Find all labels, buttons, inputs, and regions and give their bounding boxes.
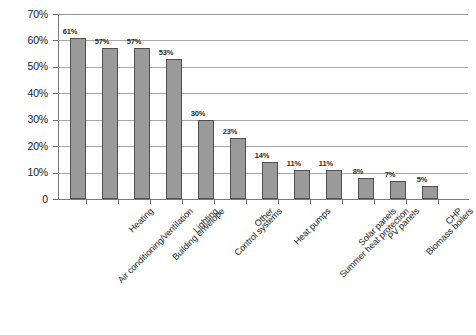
y-axis-tick-label: 10%: [4, 166, 48, 178]
bar-value-label: 30%: [178, 109, 218, 118]
gridline: [58, 14, 468, 15]
category-label: Heat pumps: [292, 206, 333, 247]
x-axis-tick-mark: [118, 200, 119, 204]
gridline: [58, 146, 468, 147]
x-axis-tick-mark: [278, 200, 279, 204]
bar-chart: 70% 60% 50% 40% 30% 20% 10% 0: [0, 0, 476, 335]
bar: [358, 178, 374, 199]
x-axis-tick-mark: [406, 200, 407, 204]
bar: [166, 59, 182, 199]
bar: [70, 38, 86, 199]
x-axis-tick-mark: [150, 200, 151, 204]
bar-value-label: 57%: [114, 37, 154, 46]
y-axis-tick-label: 40%: [4, 87, 48, 99]
y-axis-tick-label: 0: [4, 193, 48, 205]
gridline: [58, 93, 468, 94]
y-axis-tick-label: 20%: [4, 140, 48, 152]
y-axis-tick-label: 50%: [4, 60, 48, 72]
bar: [294, 170, 310, 199]
x-axis-tick-mark: [182, 200, 183, 204]
y-axis-tick-label: 70%: [4, 8, 48, 20]
category-label: Heating: [127, 206, 156, 235]
x-axis-tick-mark: [310, 200, 311, 204]
y-axis-tick-label: 60%: [4, 34, 48, 46]
bar-value-label: 61%: [50, 27, 90, 36]
bar: [230, 138, 246, 199]
x-axis-tick-mark: [342, 200, 343, 204]
category-label: Control systems: [232, 206, 284, 258]
x-axis-tick-mark: [86, 200, 87, 204]
bar: [422, 186, 438, 199]
category-label: Summer heat protection: [337, 206, 410, 279]
y-axis-tick-label: 30%: [4, 113, 48, 125]
x-axis-tick-mark: [214, 200, 215, 204]
x-axis-line: [58, 199, 469, 200]
x-axis-tick-mark: [438, 200, 439, 204]
bar: [102, 48, 118, 199]
gridline: [58, 120, 468, 121]
x-axis-tick-mark: [246, 200, 247, 204]
gridline: [58, 67, 468, 68]
bar-value-label: 5%: [402, 175, 442, 184]
bar: [134, 48, 150, 199]
bar-value-label: 23%: [210, 127, 250, 136]
bar-value-label: 53%: [146, 48, 186, 57]
x-axis-tick-mark: [374, 200, 375, 204]
